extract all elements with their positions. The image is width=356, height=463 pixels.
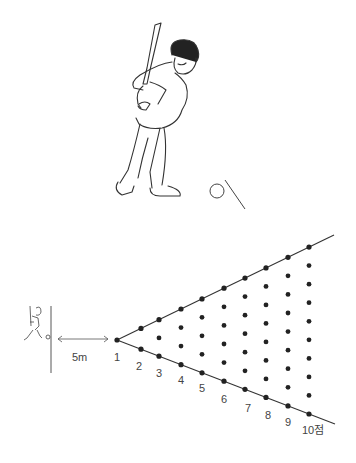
target-dot <box>286 273 291 278</box>
target-dot <box>264 284 269 289</box>
target-dot <box>243 350 248 355</box>
tee-line <box>225 180 245 209</box>
target-dot <box>264 377 269 382</box>
column-label-4: 4 <box>178 375 184 386</box>
target-dot <box>242 387 247 392</box>
target-dot <box>307 263 312 268</box>
target-dot <box>285 403 290 408</box>
target-dot <box>264 340 269 345</box>
target-dot <box>306 411 311 416</box>
target-dot <box>243 368 248 373</box>
target-dot <box>138 347 143 352</box>
target-dot <box>156 354 161 359</box>
small-ball-icon <box>46 335 50 339</box>
target-dot <box>263 395 268 400</box>
ball-on-tee <box>210 180 245 209</box>
target-dot <box>307 282 312 287</box>
target-dot <box>200 333 205 338</box>
target-dot <box>243 313 248 318</box>
target-dot <box>243 331 248 336</box>
target-dot <box>285 255 290 260</box>
target-dot <box>199 370 204 375</box>
column-label-5: 5 <box>199 383 205 394</box>
target-dot <box>179 344 184 349</box>
small-batter-figure <box>24 306 50 340</box>
target-dot <box>179 325 184 330</box>
target-dot <box>307 337 312 342</box>
target-dot <box>306 245 311 250</box>
target-dot <box>286 348 291 353</box>
target-dot <box>138 326 143 331</box>
target-dot <box>222 304 227 309</box>
target-dot <box>264 358 269 363</box>
ball-icon <box>210 184 224 198</box>
target-dot <box>222 360 227 365</box>
target-dot <box>157 336 162 341</box>
column-label-8: 8 <box>265 410 271 421</box>
column-label-3: 3 <box>156 368 162 379</box>
target-dot <box>307 300 312 305</box>
column-label-1: 1 <box>114 352 120 363</box>
target-dot <box>200 352 205 357</box>
target-dot <box>242 276 247 281</box>
target-dot <box>114 337 119 342</box>
target-dot <box>307 375 312 380</box>
target-dot <box>200 315 205 320</box>
target-dots <box>114 245 311 417</box>
target-dot <box>286 311 291 316</box>
target-dot <box>243 294 248 299</box>
target-dot <box>222 323 227 328</box>
target-dot <box>307 356 312 361</box>
figure-canvas <box>0 0 356 463</box>
target-dot <box>263 265 268 270</box>
target-dot <box>199 296 204 301</box>
column-label-10: 10점 <box>302 425 324 436</box>
target-dot <box>307 319 312 324</box>
target-dot <box>286 385 291 390</box>
target-dot <box>286 366 291 371</box>
target-dot <box>222 342 227 347</box>
column-label-9: 9 <box>285 417 291 428</box>
target-dot <box>264 321 269 326</box>
target-dot <box>286 292 291 297</box>
target-dot <box>178 362 183 367</box>
distance-label: 5m <box>72 351 87 363</box>
batter-illustration <box>116 23 198 196</box>
target-dot <box>264 303 269 308</box>
distance-arrow <box>58 336 108 342</box>
target-dot <box>156 317 161 322</box>
column-label-6: 6 <box>221 394 227 405</box>
target-dot <box>221 379 226 384</box>
column-label-2: 2 <box>136 361 142 372</box>
target-dot <box>221 286 226 291</box>
target-dot <box>286 329 291 334</box>
column-label-7: 7 <box>245 403 251 414</box>
target-dot <box>307 393 312 398</box>
target-dot <box>178 306 183 311</box>
